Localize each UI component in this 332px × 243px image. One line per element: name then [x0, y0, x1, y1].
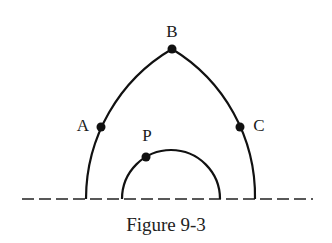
point-p-dot	[142, 153, 151, 162]
figure-9-3: B A C P Figure 9-3	[0, 0, 332, 243]
point-b-label: B	[166, 23, 177, 40]
point-c-label: C	[253, 117, 264, 134]
point-a-label: A	[77, 117, 89, 134]
point-a-dot	[97, 123, 106, 132]
point-b-dot	[168, 45, 177, 54]
inner-semicircle-arc	[122, 150, 220, 199]
point-p-label: P	[142, 127, 151, 144]
point-c-dot	[236, 123, 245, 132]
figure-caption: Figure 9-3	[126, 214, 206, 236]
